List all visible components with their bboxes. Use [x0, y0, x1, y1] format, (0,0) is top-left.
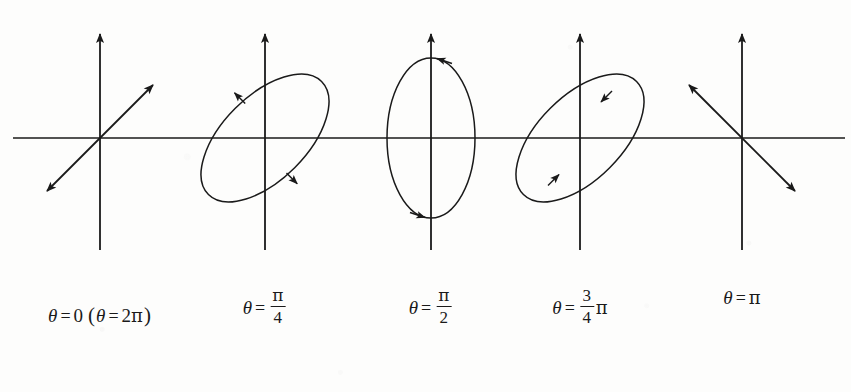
panel-theta-0: [47, 34, 153, 250]
fraction: π 4: [270, 287, 285, 326]
equals-symbol: =: [565, 299, 575, 317]
fraction-numerator: 3: [581, 287, 594, 304]
equals-symbol: =: [60, 307, 70, 325]
polarization-diagram: [0, 0, 851, 392]
panel-theta-pi: [689, 34, 795, 250]
fraction: 3 4: [580, 287, 594, 326]
fraction-bar: [270, 306, 285, 307]
panel-theta-pi-over-4: [179, 34, 352, 250]
equals-symbol: =: [421, 299, 431, 317]
fraction-denominator: 2: [438, 309, 451, 326]
pi-symbol: π: [596, 299, 608, 317]
panel-theta-3pi-over-4: [494, 34, 667, 250]
theta-symbol-alt: θ: [96, 306, 105, 325]
panel-theta-pi-over-2: [387, 34, 475, 250]
label-theta-3pi-over-4: θ = 3 4 π: [552, 288, 607, 327]
ellipse-direction-arrow-upper-panel-2: [235, 93, 246, 104]
theta-symbol: θ: [243, 298, 252, 317]
ellipse-direction-arrow-upper-panel-4: [601, 91, 612, 102]
equals-symbol: =: [736, 289, 746, 307]
label-theta-pi-over-2-line1: θ = π 2: [409, 288, 454, 327]
fraction-numerator: π: [270, 287, 285, 304]
theta-alt-coefficient: 2: [122, 306, 132, 325]
theta-symbol: θ: [552, 298, 561, 317]
figure-root: θ = 0 ( θ = 2 π ) θ = π 4: [0, 0, 851, 392]
equals-symbol: =: [255, 299, 265, 317]
theta-symbol: θ: [409, 298, 418, 317]
pi-symbol: π: [749, 289, 761, 307]
label-theta-0: θ = 0 ( θ = 2 π ): [48, 288, 152, 326]
ellipse-direction-arrow-lower-panel-2: [287, 173, 298, 184]
theta-value: 0: [74, 306, 84, 325]
label-theta-pi-line1: θ = π: [723, 288, 760, 307]
theta-symbol: θ: [723, 288, 732, 307]
open-paren: (: [88, 305, 95, 326]
fraction-bar: [580, 306, 594, 307]
fraction: π 2: [436, 287, 451, 326]
fraction-denominator: 4: [581, 309, 594, 326]
label-theta-pi-over-2: θ = π 2: [409, 288, 454, 327]
ellipse-direction-arrow-lower-panel-4: [548, 175, 559, 186]
label-theta-0-line1: θ = 0: [48, 306, 83, 325]
fraction-numerator: π: [436, 287, 451, 304]
theta-symbol: θ: [48, 306, 57, 325]
ellipse-direction-arrow-top-panel-3: [437, 59, 452, 64]
fraction-bar: [436, 306, 451, 307]
ellipse-direction-arrow-bottom-panel-3: [410, 213, 425, 218]
label-theta-pi: θ = π: [723, 288, 760, 307]
pi-symbol-alt: π: [131, 307, 143, 325]
label-theta-3pi-over-4-line1: θ = 3 4 π: [552, 288, 607, 327]
label-theta-0-line2: ( θ = 2 π ): [87, 305, 152, 326]
equals-symbol-alt: =: [108, 307, 118, 325]
label-theta-pi-over-4: θ = π 4: [243, 288, 288, 327]
fraction-denominator: 4: [272, 309, 285, 326]
close-paren: ): [144, 305, 151, 326]
label-theta-pi-over-4-line1: θ = π 4: [243, 288, 288, 327]
